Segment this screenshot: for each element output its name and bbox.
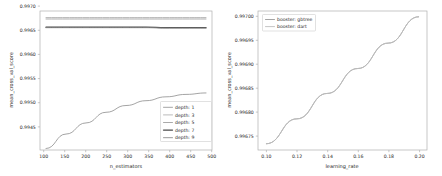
x-tick-label: 350 <box>144 154 153 159</box>
x-tick-label: 150 <box>60 154 69 159</box>
figure-canvas: 100 150 200 250 300 350 400 450 500 0. <box>0 0 442 176</box>
legend-label: depth: 9 <box>175 135 194 140</box>
y-tick-label: 0.99685 <box>235 86 254 91</box>
left-chart-svg: 100 150 200 250 300 350 400 450 500 0. <box>0 0 221 176</box>
x-tick-label: 400 <box>165 154 174 159</box>
right-x-ticklabels: 0.10 0.12 0.14 0.16 0.18 0.20 <box>261 154 425 159</box>
left-y-ticklabels: 0.9945 0.9950 0.9955 0.9960 0.9965 0.997… <box>20 4 36 130</box>
right-chart-svg: 0.10 0.12 0.14 0.16 0.18 0.20 0.99675 0.… <box>221 0 442 176</box>
series-line <box>266 17 418 144</box>
y-tick-label: 0.99700 <box>235 14 254 19</box>
x-tick-label: 0.12 <box>292 154 302 159</box>
right-data-lines <box>266 17 418 144</box>
chart-panel-n-estimators: 100 150 200 250 300 350 400 450 500 0. <box>0 0 221 176</box>
right-y-ticklabels: 0.99675 0.99680 0.99685 0.99690 0.99695 … <box>235 14 254 139</box>
chart-panel-learning-rate: 0.10 0.12 0.14 0.16 0.18 0.20 0.99675 0.… <box>221 0 442 176</box>
x-tick-label: 200 <box>81 154 90 159</box>
x-tick-label: 250 <box>102 154 111 159</box>
x-tick-label: 100 <box>39 154 48 159</box>
legend-label: booster: gbtree <box>277 17 313 22</box>
y-tick-label: 0.9970 <box>20 4 36 9</box>
x-tick-label: 0.10 <box>261 154 271 159</box>
y-tick-label: 0.99690 <box>235 62 254 67</box>
y-tick-label: 0.9960 <box>20 52 36 57</box>
y-tick-label: 0.99675 <box>235 134 254 139</box>
left-legend[interactable]: depth: 1 depth: 3 depth: 5 depth: 7 dept… <box>161 102 212 142</box>
x-tick-label: 0.14 <box>323 154 333 159</box>
legend-label: depth: 3 <box>175 113 194 118</box>
left-x-axis-title: n_estimators <box>110 163 143 170</box>
left-x-ticklabels: 100 150 200 250 300 350 400 450 500 <box>39 154 216 159</box>
legend-label: depth: 7 <box>175 128 194 133</box>
left-y-axis-title: mean_cross_val_score <box>8 52 15 108</box>
x-tick-label: 0.20 <box>414 154 424 159</box>
legend-label: depth: 5 <box>175 120 194 125</box>
x-tick-label: 500 <box>207 154 216 159</box>
x-tick-label: 450 <box>186 154 195 159</box>
y-tick-label: 0.9965 <box>20 28 36 33</box>
right-y-axis-title: mean_cross_val_score <box>226 52 233 108</box>
x-tick-label: 0.16 <box>353 154 363 159</box>
y-tick-label: 0.9955 <box>20 76 36 81</box>
y-tick-label: 0.99695 <box>235 38 254 43</box>
y-tick-label: 0.9950 <box>20 100 36 105</box>
x-tick-label: 300 <box>123 154 132 159</box>
y-tick-label: 0.99680 <box>235 110 254 115</box>
legend-label: depth: 1 <box>175 105 194 110</box>
y-tick-label: 0.9945 <box>20 125 36 130</box>
legend-label: booster: dart <box>277 24 307 29</box>
right-x-axis-title: learning_rate <box>325 163 358 170</box>
x-tick-label: 0.18 <box>384 154 394 159</box>
right-legend[interactable]: booster: gbtree booster: dart <box>263 15 316 32</box>
